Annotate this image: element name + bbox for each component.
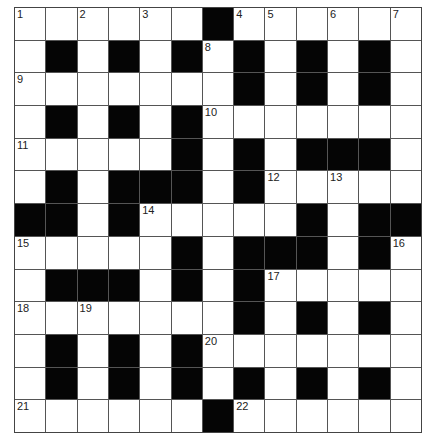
answer-square[interactable] bbox=[15, 171, 45, 203]
answer-square[interactable] bbox=[297, 335, 327, 367]
answer-square[interactable] bbox=[172, 302, 202, 334]
answer-square[interactable]: 1 bbox=[15, 8, 45, 40]
answer-square[interactable] bbox=[328, 41, 358, 73]
answer-square[interactable] bbox=[391, 171, 421, 203]
answer-square[interactable] bbox=[297, 106, 327, 138]
answer-square[interactable] bbox=[140, 106, 170, 138]
answer-square[interactable] bbox=[140, 270, 170, 302]
answer-square[interactable] bbox=[140, 139, 170, 171]
answer-square[interactable] bbox=[265, 302, 295, 334]
answer-square[interactable] bbox=[46, 302, 76, 334]
answer-square[interactable] bbox=[78, 171, 108, 203]
answer-square[interactable]: 4 bbox=[234, 8, 264, 40]
answer-square[interactable] bbox=[391, 139, 421, 171]
answer-square[interactable] bbox=[328, 335, 358, 367]
answer-square[interactable] bbox=[172, 400, 202, 432]
answer-square[interactable]: 14 bbox=[140, 204, 170, 236]
answer-square[interactable] bbox=[46, 8, 76, 40]
answer-square[interactable]: 11 bbox=[15, 139, 45, 171]
answer-square[interactable] bbox=[391, 400, 421, 432]
answer-square[interactable] bbox=[359, 106, 389, 138]
answer-square[interactable] bbox=[297, 171, 327, 203]
answer-square[interactable] bbox=[203, 204, 233, 236]
answer-square[interactable]: 20 bbox=[203, 335, 233, 367]
answer-square[interactable] bbox=[46, 139, 76, 171]
answer-square[interactable]: 6 bbox=[328, 8, 358, 40]
answer-square[interactable]: 2 bbox=[78, 8, 108, 40]
answer-square[interactable] bbox=[391, 335, 421, 367]
answer-square[interactable]: 9 bbox=[15, 73, 45, 105]
answer-square[interactable] bbox=[359, 171, 389, 203]
answer-square[interactable] bbox=[172, 8, 202, 40]
answer-square[interactable] bbox=[78, 41, 108, 73]
answer-square[interactable] bbox=[172, 73, 202, 105]
answer-square[interactable] bbox=[46, 237, 76, 269]
answer-square[interactable] bbox=[15, 335, 45, 367]
answer-square[interactable]: 5 bbox=[265, 8, 295, 40]
answer-square[interactable] bbox=[203, 139, 233, 171]
answer-square[interactable] bbox=[15, 106, 45, 138]
answer-square[interactable]: 15 bbox=[15, 237, 45, 269]
answer-square[interactable] bbox=[78, 237, 108, 269]
answer-square[interactable] bbox=[265, 41, 295, 73]
answer-square[interactable] bbox=[328, 368, 358, 400]
answer-square[interactable] bbox=[265, 106, 295, 138]
answer-square[interactable] bbox=[15, 41, 45, 73]
answer-square[interactable]: 19 bbox=[78, 302, 108, 334]
answer-square[interactable] bbox=[172, 204, 202, 236]
answer-square[interactable] bbox=[234, 106, 264, 138]
answer-square[interactable] bbox=[109, 302, 139, 334]
answer-square[interactable] bbox=[328, 204, 358, 236]
answer-square[interactable] bbox=[265, 400, 295, 432]
answer-square[interactable] bbox=[265, 139, 295, 171]
answer-square[interactable] bbox=[109, 73, 139, 105]
answer-square[interactable] bbox=[109, 237, 139, 269]
answer-square[interactable] bbox=[46, 400, 76, 432]
answer-square[interactable]: 13 bbox=[328, 171, 358, 203]
answer-square[interactable] bbox=[140, 302, 170, 334]
answer-square[interactable] bbox=[391, 41, 421, 73]
answer-square[interactable]: 17 bbox=[265, 270, 295, 302]
answer-square[interactable] bbox=[46, 73, 76, 105]
answer-square[interactable] bbox=[328, 400, 358, 432]
answer-square[interactable] bbox=[78, 400, 108, 432]
answer-square[interactable] bbox=[203, 73, 233, 105]
answer-square[interactable]: 21 bbox=[15, 400, 45, 432]
answer-square[interactable] bbox=[391, 368, 421, 400]
answer-square[interactable] bbox=[265, 73, 295, 105]
answer-square[interactable] bbox=[203, 237, 233, 269]
answer-square[interactable] bbox=[391, 270, 421, 302]
answer-square[interactable] bbox=[140, 237, 170, 269]
answer-square[interactable] bbox=[140, 400, 170, 432]
answer-square[interactable] bbox=[109, 8, 139, 40]
answer-square[interactable] bbox=[328, 106, 358, 138]
answer-square[interactable] bbox=[328, 73, 358, 105]
answer-square[interactable] bbox=[391, 73, 421, 105]
answer-square[interactable] bbox=[359, 8, 389, 40]
answer-square[interactable] bbox=[140, 368, 170, 400]
answer-square[interactable] bbox=[140, 41, 170, 73]
answer-square[interactable] bbox=[234, 335, 264, 367]
answer-square[interactable] bbox=[297, 270, 327, 302]
answer-square[interactable] bbox=[203, 270, 233, 302]
answer-square[interactable] bbox=[328, 270, 358, 302]
answer-square[interactable] bbox=[297, 8, 327, 40]
answer-square[interactable] bbox=[328, 237, 358, 269]
answer-square[interactable]: 3 bbox=[140, 8, 170, 40]
answer-square[interactable] bbox=[140, 73, 170, 105]
answer-square[interactable] bbox=[109, 139, 139, 171]
answer-square[interactable] bbox=[15, 270, 45, 302]
answer-square[interactable]: 16 bbox=[391, 237, 421, 269]
answer-square[interactable] bbox=[78, 335, 108, 367]
answer-square[interactable]: 7 bbox=[391, 8, 421, 40]
answer-square[interactable] bbox=[265, 368, 295, 400]
answer-square[interactable] bbox=[391, 106, 421, 138]
answer-square[interactable] bbox=[359, 335, 389, 367]
answer-square[interactable] bbox=[359, 270, 389, 302]
answer-square[interactable] bbox=[203, 302, 233, 334]
answer-square[interactable] bbox=[78, 139, 108, 171]
answer-square[interactable] bbox=[391, 302, 421, 334]
answer-square[interactable] bbox=[234, 204, 264, 236]
answer-square[interactable] bbox=[78, 204, 108, 236]
answer-square[interactable]: 18 bbox=[15, 302, 45, 334]
